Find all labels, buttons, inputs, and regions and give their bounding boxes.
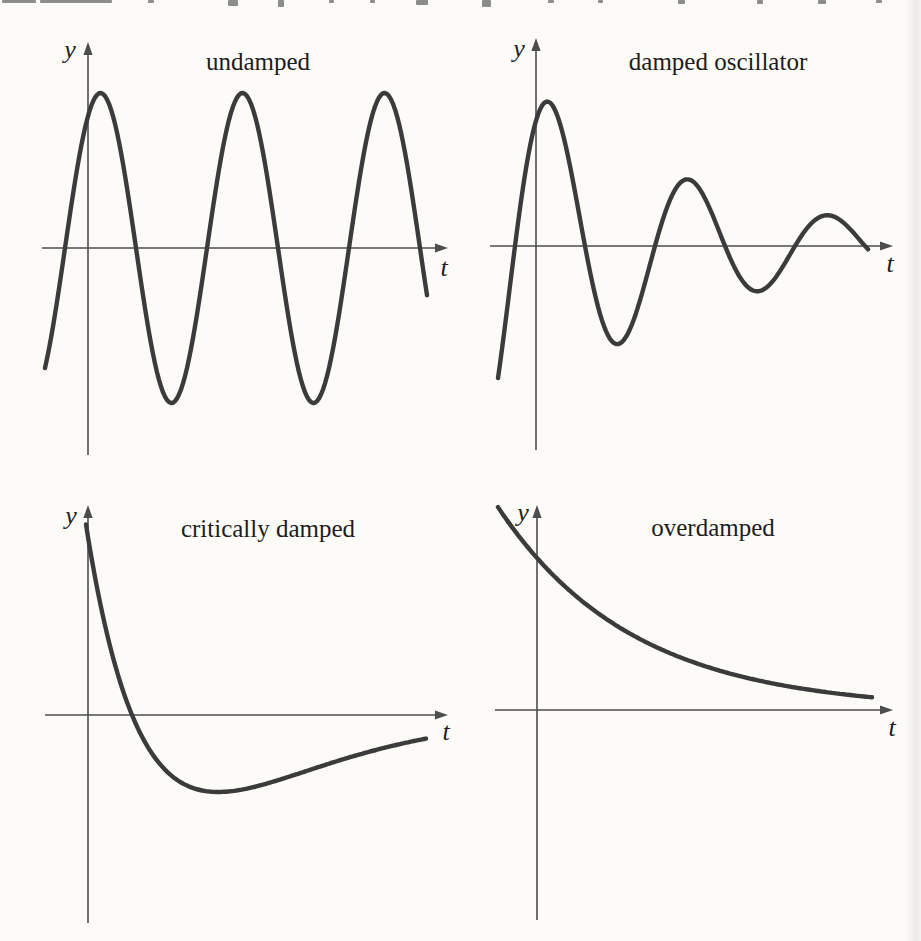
damped-oscillator-y-axis-arrow-icon: [531, 38, 540, 51]
critically-damped-y-axis-arrow-icon: [83, 505, 92, 518]
overdamped-t-axis-label: t: [888, 715, 895, 741]
critically-damped-curve: [86, 525, 426, 793]
damped-oscillator-plot: [490, 38, 893, 450]
overdamped-plot: [495, 505, 893, 920]
damped-oscillator-title: damped oscillator: [629, 49, 807, 74]
undamped-y-axis-arrow-icon: [83, 42, 92, 55]
overdamped-y-axis-label: y: [517, 500, 529, 526]
critically-damped-plot: [45, 505, 448, 923]
undamped-plot: [42, 42, 448, 455]
undamped-title: undamped: [206, 49, 310, 74]
figure-page: undamped damped oscillator critically da…: [0, 0, 921, 941]
overdamped-y-axis-arrow-icon: [532, 505, 541, 518]
oscillator-figure: [0, 0, 921, 941]
overdamped-title: overdamped: [651, 515, 775, 540]
critically-damped-y-axis-label: y: [65, 503, 77, 529]
damped-oscillator-t-axis-label: t: [886, 251, 893, 277]
damped-oscillator-curve: [498, 102, 868, 379]
undamped-t-axis-label: t: [440, 255, 447, 281]
critically-damped-t-axis-label: t: [442, 719, 449, 745]
undamped-y-axis-label: y: [64, 37, 76, 63]
undamped-t-axis-arrow-icon: [435, 243, 448, 252]
damped-oscillator-y-axis-label: y: [513, 36, 525, 62]
critically-damped-title: critically damped: [181, 516, 355, 541]
